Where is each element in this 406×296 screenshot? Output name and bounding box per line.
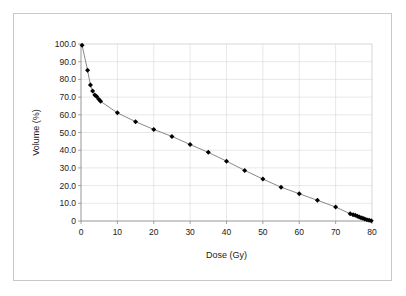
svg-text:80: 80 [367,227,377,237]
figure-container: 01020304050607080 010.020.030.040.050.06… [0,0,406,296]
svg-text:0: 0 [79,227,84,237]
data-point [206,150,211,155]
svg-text:30: 30 [185,227,195,237]
data-point [297,191,302,196]
data-point [242,168,247,173]
y-tick-labels: 010.020.030.040.050.060.070.080.090.0100… [55,39,77,226]
svg-text:70: 70 [331,227,341,237]
data-point [260,177,265,182]
svg-text:30.0: 30.0 [59,163,76,173]
svg-text:60: 60 [295,227,305,237]
svg-text:20: 20 [149,227,159,237]
svg-text:70.0: 70.0 [59,92,76,102]
data-point [169,134,174,139]
data-point [85,68,90,73]
svg-text:60.0: 60.0 [59,110,76,120]
svg-text:0: 0 [71,216,76,226]
data-point [188,142,193,147]
x-axis-title: Dose (Gy) [206,250,247,260]
svg-text:20.0: 20.0 [59,181,76,191]
svg-text:40.0: 40.0 [59,145,76,155]
data-point [151,127,156,132]
svg-text:50.0: 50.0 [59,128,76,138]
svg-text:90.0: 90.0 [59,57,76,67]
data-point [315,198,320,203]
data-point [333,205,338,210]
data-point [224,159,229,164]
svg-text:50: 50 [258,227,268,237]
svg-text:80.0: 80.0 [59,74,76,84]
svg-text:40: 40 [222,227,232,237]
data-point [133,119,138,124]
data-point [90,89,95,94]
data-point [80,43,85,48]
y-axis-title: Volume (%) [31,109,41,156]
svg-text:100.0: 100.0 [55,39,77,49]
gridlines [81,44,372,221]
svg-text:10.0: 10.0 [59,198,76,208]
data-point [88,83,93,88]
tick-marks [78,44,372,224]
svg-text:10: 10 [113,227,123,237]
x-tick-labels: 01020304050607080 [79,227,377,237]
dvh-chart: 01020304050607080 010.020.030.040.050.06… [0,0,406,296]
